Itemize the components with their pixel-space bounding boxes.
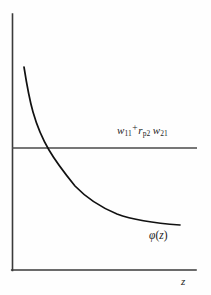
plot-canvas	[0, 0, 211, 295]
figure-container: w11+rp2 w21 φ(z) z	[0, 0, 211, 295]
